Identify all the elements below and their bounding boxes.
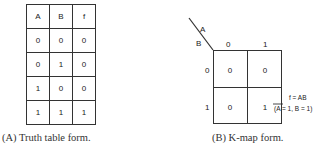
- kmap-annotation-expr: f = AB: [289, 94, 307, 102]
- kmap-cell: 0: [260, 67, 270, 75]
- kmap-row-label: 1: [205, 104, 209, 112]
- kmap-cell: 1: [260, 104, 270, 112]
- kmap-col-label: 0: [226, 41, 230, 49]
- kmap-cell: 0: [225, 67, 235, 75]
- kmap-cell: 0: [225, 104, 235, 112]
- kmap-var-b: B: [196, 40, 201, 48]
- kmap-row-label: 0: [205, 67, 209, 75]
- kmap-col-label: 1: [263, 41, 267, 49]
- kmap-annotation-values: (A = 1, B = 1): [274, 105, 312, 113]
- kmap-grid: 0 0 0 1: [213, 50, 282, 124]
- kmap-var-a: A: [200, 26, 205, 34]
- kmap-caption: (B) K-map form.: [212, 132, 283, 143]
